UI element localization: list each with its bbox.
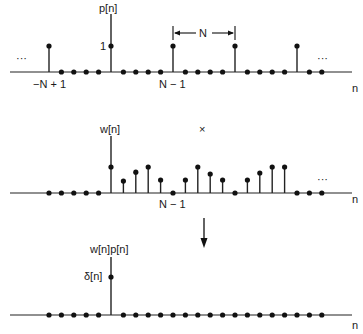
sample-point: [59, 312, 64, 317]
sample-point: [133, 69, 138, 74]
sample-point: [170, 190, 175, 195]
sample-point: [71, 312, 76, 317]
n-minus-1-label-w: N − 1: [159, 198, 186, 210]
sample-point: [282, 69, 287, 74]
sample-point: [121, 178, 126, 183]
sample-point: [59, 69, 64, 74]
sample-point: [208, 69, 213, 74]
sample-point: [307, 190, 312, 195]
sample-point: [96, 69, 101, 74]
sample-point: [46, 190, 51, 195]
sample-point: [270, 69, 275, 74]
sample-point: [170, 312, 175, 317]
sample-point: [220, 69, 225, 74]
sample-point: [307, 312, 312, 317]
sample-point: [232, 190, 237, 195]
n-minus-1-label-p: N − 1: [159, 78, 186, 90]
sample-point: [183, 177, 188, 182]
sample-point: [183, 312, 188, 317]
sample-point: [294, 190, 299, 195]
sample-point: [108, 274, 113, 279]
sample-point: [183, 69, 188, 74]
sample-point: [208, 171, 213, 176]
sample-point: [195, 312, 200, 317]
down-arrow-icon: [201, 218, 208, 248]
left-label: −N + 1: [33, 78, 66, 90]
period-label: N: [199, 27, 207, 39]
sample-point: [108, 164, 113, 169]
sample-point: [270, 312, 275, 317]
sample-point: [282, 164, 287, 169]
sample-point: [232, 43, 237, 48]
sample-point: [220, 312, 225, 317]
sample-point: [133, 312, 138, 317]
sample-point: [96, 312, 101, 317]
sample-point: [46, 43, 51, 48]
sample-point: [270, 164, 275, 169]
sample-point: [170, 43, 175, 48]
ellipsis-right-icon: ···: [317, 173, 328, 185]
axis-label-n-p: n: [352, 82, 358, 94]
sample-point: [319, 312, 324, 317]
sample-point: [220, 177, 225, 182]
sample-point: [257, 312, 262, 317]
sample-point: [121, 69, 126, 74]
sample-point: [294, 43, 299, 48]
sample-point: [84, 312, 89, 317]
sample-point: [257, 69, 262, 74]
panel-w: w[n] × ··· N − 1 n: [10, 123, 358, 210]
sample-point: [319, 190, 324, 195]
sample-point: [245, 312, 250, 317]
sample-point: [59, 190, 64, 195]
sample-point: [158, 312, 163, 317]
unit-label: 1: [100, 40, 106, 52]
title-wp: w[n]p[n]: [89, 243, 129, 255]
sample-point: [158, 69, 163, 74]
ellipsis-left-icon: ···: [16, 52, 27, 64]
arrowhead-right-icon: [228, 31, 234, 36]
sample-point: [84, 190, 89, 195]
sample-point: [71, 69, 76, 74]
sample-point: [245, 69, 250, 74]
sample-point: [146, 312, 151, 317]
panel-wp: w[n]p[n] δ[n] n: [10, 243, 358, 331]
sample-point: [245, 177, 250, 182]
figure: p[n] 1 ··· ··· −N + 1 N − 1 n N w[n] × ·…: [0, 0, 363, 334]
sample-point: [108, 43, 113, 48]
axis-label-n-wp: n: [352, 319, 358, 331]
sample-point: [71, 190, 76, 195]
title-p: p[n]: [99, 2, 117, 14]
ellipsis-right-icon: ···: [317, 52, 328, 64]
sample-point: [46, 312, 51, 317]
sample-point: [257, 170, 262, 175]
sample-point: [282, 312, 287, 317]
sample-point: [158, 177, 163, 182]
axis-label-n-w: n: [352, 193, 358, 205]
sample-point: [208, 312, 213, 317]
title-w: w[n]: [99, 123, 120, 135]
sample-point: [195, 69, 200, 74]
sample-point: [307, 69, 312, 74]
sample-point: [84, 69, 89, 74]
multiply-icon: ×: [199, 123, 205, 135]
arrowhead-left-icon: [174, 31, 180, 36]
sample-point: [96, 190, 101, 195]
panel-p: p[n] 1 ··· ··· −N + 1 N − 1 n N: [10, 2, 358, 94]
sample-point: [146, 69, 151, 74]
sample-point: [121, 312, 126, 317]
sample-point: [294, 312, 299, 317]
sample-point: [133, 170, 138, 175]
sample-point: [319, 69, 324, 74]
sample-point: [146, 164, 151, 169]
delta-label: δ[n]: [84, 270, 102, 282]
sample-point: [232, 312, 237, 317]
sample-point: [195, 164, 200, 169]
